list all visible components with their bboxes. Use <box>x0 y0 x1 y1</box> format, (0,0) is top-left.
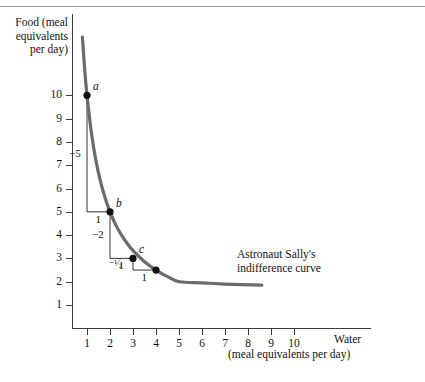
point-marker-b <box>106 208 113 215</box>
plot-area <box>0 0 425 382</box>
step-rise-label-2: −¹⁄₂ <box>109 258 122 268</box>
point-label-b: b <box>116 197 122 209</box>
step-rise-label-0: −5 <box>69 147 81 159</box>
step-run-label-2: 1 <box>142 271 148 283</box>
step-run-label-0: 1 <box>96 213 102 225</box>
curve-point-markers <box>83 92 159 274</box>
point-marker-a <box>83 92 90 99</box>
indifference-curve <box>82 37 261 285</box>
curve-annotation: Astronaut Sally's indifference curve <box>237 248 321 275</box>
x-axis-unit-label: (meal equivalents per day) <box>228 348 350 360</box>
curve-annotation-line-1: Astronaut Sally's <box>237 248 321 262</box>
point-marker <box>152 266 159 273</box>
point-marker-c <box>129 255 136 262</box>
step-rise-label-1: −2 <box>92 228 104 240</box>
chart-figure: Food (meal equivalents per day) 12345678… <box>0 0 425 382</box>
curve-annotation-line-2: indifference curve <box>237 262 321 276</box>
x-axis-title: Water <box>334 333 361 345</box>
point-label-c: c <box>139 243 144 255</box>
point-label-a: a <box>93 80 99 92</box>
step-bracket-lines <box>87 95 156 270</box>
